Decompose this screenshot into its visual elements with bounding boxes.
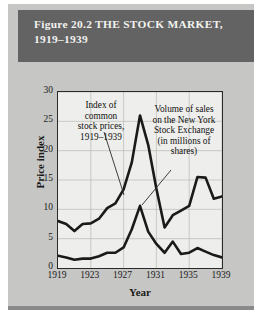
right-annotation-line-5: shares) <box>143 146 225 157</box>
y-tick-label: 25 <box>29 114 53 124</box>
left-annotation-line-3: stock prices, <box>62 121 140 132</box>
left-margin <box>0 0 8 322</box>
right-annotation-line-1: Volume of sales <box>143 104 225 115</box>
right-annotation: Volume of sales on the New York Stock Ex… <box>143 104 225 157</box>
x-tick-label: 1939 <box>202 270 240 280</box>
right-annotation-line-2: on the New York <box>143 115 225 126</box>
y-tick-label: 30 <box>29 85 53 95</box>
left-annotation-line-4: 1919–1939 <box>62 132 140 143</box>
bottom-margin <box>0 310 254 322</box>
y-tick-label: 20 <box>29 144 53 154</box>
y-tick-label: 10 <box>29 202 53 212</box>
y-tick-label: 15 <box>29 173 53 183</box>
right-annotation-line-4: (in millions of <box>143 136 225 147</box>
figure-title-line-2: 1919–1939 <box>34 32 254 47</box>
figure-container: Figure 20.2 THE STOCK MARKET, 1919–1939 … <box>0 0 254 322</box>
figure-title-line-1: Figure 20.2 THE STOCK MARKET, <box>34 17 254 32</box>
top-margin <box>0 0 254 4</box>
y-tick-label: 5 <box>29 232 53 242</box>
volume-of-sales-line <box>58 206 222 260</box>
left-annotation-line-1: Index of <box>62 100 140 111</box>
left-annotation: Index of common stock prices, 1919–1939 <box>62 100 140 142</box>
figure-title-banner: Figure 20.2 THE STOCK MARKET, 1919–1939 <box>18 10 254 62</box>
left-annotation-line-2: common <box>62 111 140 122</box>
x-axis-label: Year <box>57 286 223 298</box>
right-annotation-line-3: Stock Exchange <box>143 125 225 136</box>
